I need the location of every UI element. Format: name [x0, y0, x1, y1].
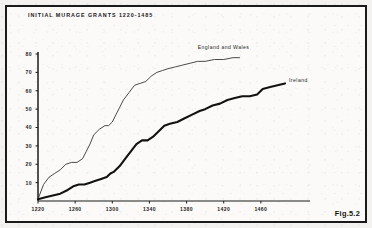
- series-label-ireland: Ireland: [289, 77, 308, 83]
- series-line-england-and-wales: [38, 58, 240, 199]
- x-axis-tick-labels: 1220126013001340138014201460: [32, 206, 268, 212]
- y-tick-label: 30: [26, 143, 32, 149]
- series-annotations: England and WalesIreland: [198, 44, 308, 83]
- x-tick-label: 1460: [254, 206, 267, 212]
- y-tick-label: 10: [26, 180, 32, 186]
- x-tick-label: 1260: [69, 206, 82, 212]
- y-tick-label: 80: [26, 51, 32, 57]
- figure-caption: Fig.5.2: [335, 209, 360, 218]
- x-tick-label: 1220: [32, 206, 45, 212]
- chart-svg: 1020304050607080 12201260130013401380142…: [0, 0, 372, 228]
- x-tick-label: 1380: [180, 206, 193, 212]
- chart-series-group: [38, 58, 285, 199]
- y-tick-label: 50: [26, 106, 32, 112]
- y-tick-label: 60: [26, 88, 32, 94]
- series-line-ireland: [38, 83, 285, 199]
- series-label-england-and-wales: England and Wales: [198, 44, 250, 50]
- y-tick-label: 70: [26, 69, 32, 75]
- x-tick-label: 1340: [143, 206, 156, 212]
- chart-plot-area: 1020304050607080 12201260130013401380142…: [0, 0, 372, 228]
- y-tick-label: 20: [26, 161, 32, 167]
- x-tick-label: 1420: [217, 206, 230, 212]
- y-tick-label: 40: [26, 124, 32, 130]
- y-axis-tick-labels: 1020304050607080: [26, 51, 32, 186]
- x-tick-label: 1300: [106, 206, 119, 212]
- figure-container: INITIAL MURAGE GRANTS 1220-1485 10203040…: [0, 0, 372, 228]
- chart-axes: [38, 52, 310, 201]
